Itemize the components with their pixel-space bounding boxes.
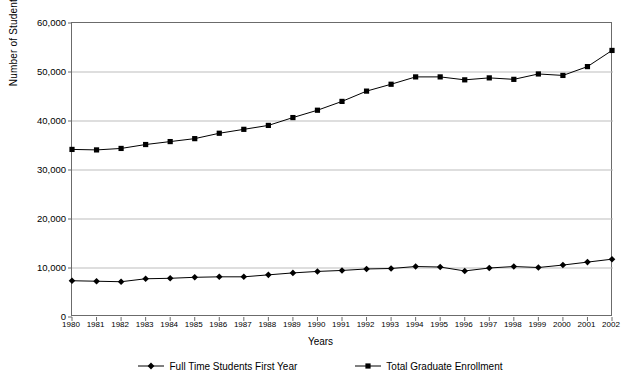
data-point-marker bbox=[609, 48, 614, 53]
x-axis-tick-labels: 1980198119821983198419851986198719881989… bbox=[0, 320, 641, 334]
data-point-marker bbox=[560, 73, 565, 78]
data-point-marker bbox=[315, 108, 320, 113]
legend-item-label: Full Time Students First Year bbox=[169, 361, 297, 372]
x-axis-tick-label: 1999 bbox=[528, 320, 546, 329]
x-axis-tick-label: 2002 bbox=[602, 320, 620, 329]
x-axis-tick-label: 1997 bbox=[479, 320, 497, 329]
data-point-marker bbox=[412, 263, 419, 270]
plot-area bbox=[71, 22, 612, 316]
x-axis-tick-label: 1988 bbox=[258, 320, 276, 329]
data-point-marker bbox=[118, 278, 125, 285]
line-chart: Number of Students 010,00020,00030,00040… bbox=[0, 0, 641, 387]
data-point-marker bbox=[413, 74, 418, 79]
x-axis-tick-label: 1991 bbox=[332, 320, 350, 329]
legend-diamond-marker-icon bbox=[138, 360, 164, 372]
x-axis-tick-label: 1990 bbox=[308, 320, 326, 329]
data-point-marker bbox=[511, 77, 516, 82]
data-point-marker bbox=[438, 74, 443, 79]
x-axis-tick-label: 1984 bbox=[160, 320, 178, 329]
data-point-marker bbox=[486, 265, 493, 272]
x-axis-tick-label: 2000 bbox=[553, 320, 571, 329]
x-axis-title: Years bbox=[0, 336, 641, 347]
data-point-marker bbox=[584, 259, 591, 266]
data-point-marker bbox=[143, 142, 148, 147]
x-axis-tick-label: 1986 bbox=[209, 320, 227, 329]
x-axis-tick-label: 1987 bbox=[234, 320, 252, 329]
data-point-marker bbox=[536, 71, 541, 76]
data-point-marker bbox=[437, 264, 444, 271]
x-axis-tick-label: 1996 bbox=[455, 320, 473, 329]
data-point-marker bbox=[560, 262, 567, 269]
data-point-marker bbox=[216, 274, 223, 281]
x-axis-tick-label: 1985 bbox=[185, 320, 203, 329]
data-point-marker bbox=[265, 272, 272, 279]
y-axis-tick-label: 50,000 bbox=[20, 66, 66, 77]
data-point-marker bbox=[314, 268, 321, 275]
x-axis-tick-label: 1983 bbox=[136, 320, 154, 329]
data-point-marker bbox=[290, 115, 295, 120]
legend-item: Total Graduate Enrollment bbox=[355, 360, 502, 372]
data-point-marker bbox=[339, 99, 344, 104]
data-point-marker bbox=[364, 89, 369, 94]
data-point-marker bbox=[93, 278, 100, 285]
data-point-marker bbox=[192, 136, 197, 141]
data-point-marker bbox=[94, 147, 99, 152]
y-axis-tick-label: 30,000 bbox=[20, 164, 66, 175]
chart-legend: Full Time Students First YearTotal Gradu… bbox=[0, 360, 641, 372]
data-point-marker bbox=[142, 275, 149, 282]
data-point-marker bbox=[69, 277, 76, 284]
data-point-marker bbox=[118, 146, 123, 151]
data-point-marker bbox=[241, 127, 246, 132]
data-point-marker bbox=[241, 274, 248, 281]
y-axis-tick-label: 60,000 bbox=[20, 17, 66, 28]
data-point-marker bbox=[388, 265, 395, 272]
data-point-marker bbox=[462, 77, 467, 82]
data-point-marker bbox=[167, 275, 174, 282]
data-point-marker bbox=[511, 263, 518, 270]
x-axis-tick-label: 1992 bbox=[357, 320, 375, 329]
x-axis-tick-label: 1998 bbox=[504, 320, 522, 329]
data-point-marker bbox=[388, 82, 393, 87]
y-axis-tick-labels: 010,00020,00030,00040,00050,00060,000 bbox=[16, 0, 66, 340]
x-axis-tick-label: 1989 bbox=[283, 320, 301, 329]
x-axis-tick-label: 1993 bbox=[381, 320, 399, 329]
legend-square-marker-icon bbox=[355, 360, 381, 372]
x-axis-title-label: Years bbox=[308, 336, 333, 347]
plot-svg bbox=[72, 23, 613, 317]
x-axis-tick-label: 1980 bbox=[62, 320, 80, 329]
data-point-marker bbox=[461, 268, 468, 275]
x-axis-tick-label: 2001 bbox=[578, 320, 596, 329]
x-axis-tick-label: 1994 bbox=[406, 320, 424, 329]
data-point-marker bbox=[290, 270, 297, 277]
y-axis-tick-label: 10,000 bbox=[20, 262, 66, 273]
y-axis-tick-label: 20,000 bbox=[20, 213, 66, 224]
data-point-marker bbox=[609, 256, 616, 263]
x-axis-tick-label: 1995 bbox=[430, 320, 448, 329]
legend-item-label: Total Graduate Enrollment bbox=[386, 361, 502, 372]
data-point-marker bbox=[217, 131, 222, 136]
legend-item: Full Time Students First Year bbox=[138, 360, 297, 372]
data-point-marker bbox=[191, 274, 198, 281]
data-point-marker bbox=[585, 64, 590, 69]
x-axis-tick-label: 1982 bbox=[111, 320, 129, 329]
data-point-marker bbox=[487, 75, 492, 80]
data-point-marker bbox=[535, 264, 542, 271]
x-axis-tick-label: 1981 bbox=[87, 320, 105, 329]
data-point-marker bbox=[69, 147, 74, 152]
data-point-marker bbox=[363, 266, 370, 273]
data-point-marker bbox=[266, 123, 271, 128]
data-point-marker bbox=[168, 139, 173, 144]
y-axis-tick-label: 40,000 bbox=[20, 115, 66, 126]
